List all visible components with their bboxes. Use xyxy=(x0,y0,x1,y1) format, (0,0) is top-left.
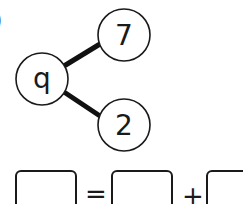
part-label-bottom: 2 xyxy=(115,109,133,142)
answer-box-part-2[interactable] xyxy=(206,170,243,204)
part-label-top: 7 xyxy=(115,19,133,52)
connector-line-bottom xyxy=(64,92,100,116)
answer-box-part-1[interactable] xyxy=(111,170,173,204)
connector-line-top xyxy=(64,44,100,66)
whole-label: q xyxy=(33,62,51,95)
equals-sign: = xyxy=(85,181,107,204)
answer-box-whole[interactable] xyxy=(15,170,77,204)
worksheet-question: ) q 7 2 = + xyxy=(0,0,243,204)
plus-sign: + xyxy=(182,183,204,204)
